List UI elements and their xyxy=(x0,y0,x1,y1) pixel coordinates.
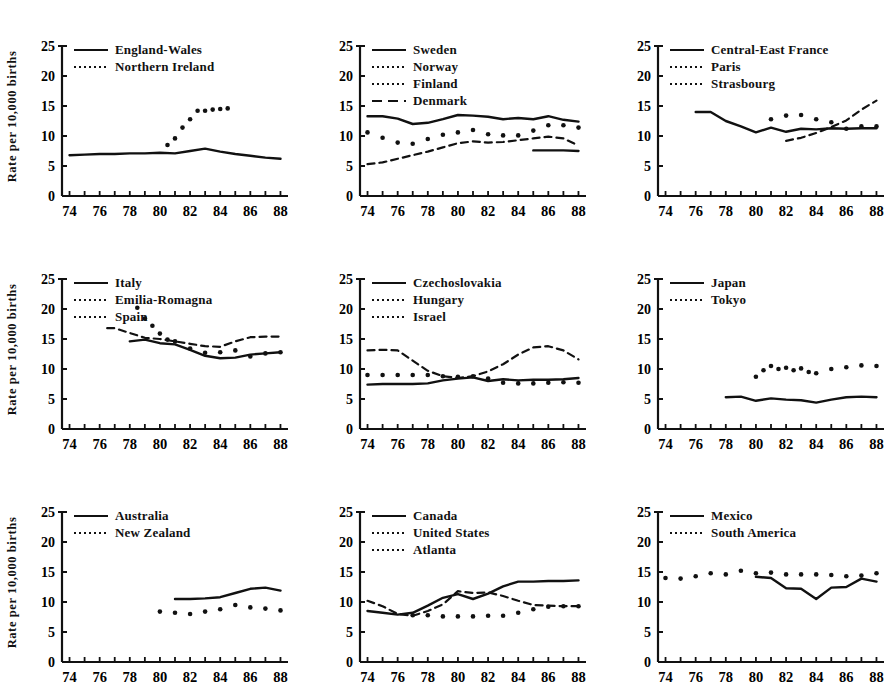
x-tick-label: 86 xyxy=(541,669,556,685)
x-tick-label: 78 xyxy=(421,669,436,685)
chart-panel-central-east-france: 05101520257476788082848688Central-East F… xyxy=(596,0,894,233)
x-tick-label: 76 xyxy=(390,669,405,685)
x-tick-label: 78 xyxy=(123,436,138,452)
x-tick-label: 82 xyxy=(779,436,794,452)
y-tick-label: 15 xyxy=(637,565,651,580)
x-tick-label: 76 xyxy=(390,436,405,452)
x-tick-label: 84 xyxy=(809,436,824,452)
y-tick-label: 20 xyxy=(339,302,353,317)
chart-panel-england-wales: Rate per 10,000 births051015202574767880… xyxy=(0,0,298,233)
x-tick-label: 88 xyxy=(869,669,884,685)
x-tick-label: 84 xyxy=(213,203,228,219)
y-tick-label: 0 xyxy=(48,189,55,204)
y-tick-label: 15 xyxy=(41,565,55,580)
y-tick-label: 20 xyxy=(339,535,353,550)
y-tick-label: 10 xyxy=(339,129,353,144)
x-tick-label: 76 xyxy=(688,669,703,685)
x-tick-label: 76 xyxy=(92,669,107,685)
series-sweden xyxy=(368,115,579,124)
y-tick-label: 15 xyxy=(339,99,353,114)
y-tick-label: 20 xyxy=(339,69,353,84)
y-tick-label: 10 xyxy=(41,595,55,610)
y-tick-label: 15 xyxy=(41,332,55,347)
x-tick-label: 88 xyxy=(571,436,586,452)
x-tick-label: 84 xyxy=(511,669,526,685)
x-tick-label: 74 xyxy=(658,669,673,685)
y-tick-label: 25 xyxy=(41,39,55,54)
x-tick-label: 78 xyxy=(421,436,436,452)
x-tick-label: 80 xyxy=(451,203,466,219)
x-tick-label: 82 xyxy=(183,669,198,685)
series-australia xyxy=(175,588,281,599)
series-new-zealand xyxy=(158,603,283,617)
panel-grid: Rate per 10,000 births051015202574767880… xyxy=(0,0,894,699)
y-tick-label: 10 xyxy=(339,595,353,610)
y-tick-label: 0 xyxy=(644,422,651,437)
y-tick-label: 25 xyxy=(637,272,651,287)
series-atlanta xyxy=(368,591,579,616)
x-tick-label: 78 xyxy=(719,203,734,219)
y-tick-label: 5 xyxy=(346,159,353,174)
x-tick-label: 84 xyxy=(213,436,228,452)
y-tick-label: 0 xyxy=(346,189,353,204)
x-tick-label: 82 xyxy=(183,203,198,219)
x-tick-label: 86 xyxy=(243,436,258,452)
x-tick-label: 88 xyxy=(869,436,884,452)
y-tick-label: 25 xyxy=(41,505,55,520)
x-tick-label: 74 xyxy=(360,669,375,685)
x-tick-label: 88 xyxy=(273,669,288,685)
x-tick-label: 82 xyxy=(779,669,794,685)
x-tick-label: 80 xyxy=(153,203,168,219)
plot-area: 05101520257476788082848688 xyxy=(0,466,298,699)
y-tick-label: 25 xyxy=(339,39,353,54)
x-tick-label: 86 xyxy=(243,669,258,685)
y-tick-label: 10 xyxy=(637,595,651,610)
y-tick-label: 0 xyxy=(644,655,651,670)
series-italy xyxy=(130,340,281,359)
series-spain xyxy=(135,306,283,359)
plot-area: 05101520257476788082848688 xyxy=(298,0,596,233)
y-tick-label: 20 xyxy=(41,302,55,317)
y-tick-label: 10 xyxy=(637,362,651,377)
plot-area: 05101520257476788082848688 xyxy=(596,466,894,699)
plot-area: 05101520257476788082848688 xyxy=(0,233,298,466)
y-tick-label: 20 xyxy=(41,535,55,550)
y-tick-label: 5 xyxy=(346,392,353,407)
x-tick-label: 84 xyxy=(511,203,526,219)
x-tick-label: 74 xyxy=(360,203,375,219)
x-tick-label: 78 xyxy=(421,203,436,219)
y-tick-label: 10 xyxy=(637,129,651,144)
plot-area: 05101520257476788082848688 xyxy=(298,466,596,699)
series-norway xyxy=(365,123,581,146)
x-tick-label: 74 xyxy=(658,436,673,452)
x-tick-label: 80 xyxy=(749,669,764,685)
chart-panel-czechoslovakia: 05101520257476788082848688Czechoslovakia… xyxy=(298,233,596,466)
x-tick-label: 80 xyxy=(749,203,764,219)
chart-panel-italy: Rate per 10,000 births051015202574767880… xyxy=(0,233,298,466)
x-tick-label: 76 xyxy=(688,436,703,452)
x-tick-label: 86 xyxy=(839,436,854,452)
x-tick-label: 86 xyxy=(243,203,258,219)
y-tick-label: 0 xyxy=(346,422,353,437)
x-tick-label: 80 xyxy=(451,669,466,685)
x-tick-label: 78 xyxy=(123,669,138,685)
x-tick-label: 78 xyxy=(719,436,734,452)
y-tick-label: 25 xyxy=(41,272,55,287)
y-tick-label: 0 xyxy=(48,422,55,437)
series-japan xyxy=(726,397,877,403)
x-tick-label: 82 xyxy=(183,436,198,452)
y-tick-label: 25 xyxy=(339,505,353,520)
x-tick-label: 84 xyxy=(511,436,526,452)
series-emilia-romagna xyxy=(107,328,280,347)
x-tick-label: 78 xyxy=(123,203,138,219)
x-tick-label: 86 xyxy=(839,203,854,219)
chart-panel-australia: Rate per 10,000 births051015202574767880… xyxy=(0,466,298,699)
y-tick-label: 0 xyxy=(48,655,55,670)
y-tick-label: 15 xyxy=(339,332,353,347)
x-tick-label: 82 xyxy=(481,203,496,219)
x-tick-label: 76 xyxy=(390,203,405,219)
x-tick-label: 80 xyxy=(153,669,168,685)
y-tick-label: 20 xyxy=(637,69,651,84)
x-tick-label: 76 xyxy=(92,203,107,219)
x-tick-label: 74 xyxy=(360,436,375,452)
